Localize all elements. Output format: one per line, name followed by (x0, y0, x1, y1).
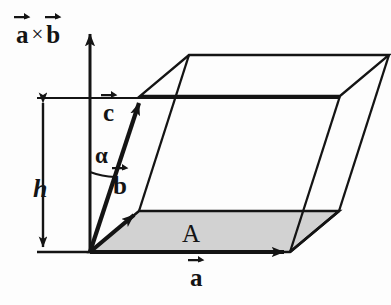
vector-diagram-figure: a × b h α A a b (0, 0, 391, 305)
axis-label-a-cross-b: a × b (16, 22, 60, 47)
height-label: h (33, 176, 47, 202)
axis-label-b-text: b (46, 21, 60, 48)
angle-arc-alpha (90, 172, 115, 177)
vector-arrow-accent-icon (45, 11, 62, 20)
vector-b-glyph: b (113, 173, 127, 198)
vector-arrow-accent-icon (188, 254, 205, 263)
area-label: A (182, 221, 200, 246)
cross-product-operator: × (29, 22, 47, 46)
vector-c-label-text: c (103, 99, 114, 126)
axis-label-b: b (46, 22, 60, 47)
vector-b-label: b (113, 173, 127, 198)
vector-a-glyph: a (190, 265, 203, 290)
vector-a-label-text: a (190, 264, 203, 291)
axis-label-a-text: a (16, 21, 29, 48)
vector-arrow-accent-icon (111, 162, 128, 171)
vector-a-label: a (190, 265, 203, 290)
vector-b-label-text: b (113, 172, 127, 199)
vector-c-glyph: c (103, 100, 114, 125)
axis-label-a: a (16, 22, 29, 47)
vector-c-label: c (103, 100, 114, 125)
vector-arrow-accent-icon (100, 89, 117, 98)
angle-label-alpha: α (95, 144, 108, 167)
vector-arrow-accent-icon (14, 11, 31, 20)
